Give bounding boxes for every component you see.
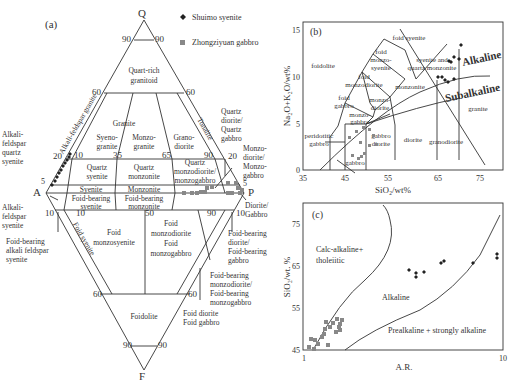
- tas-granodiorite: granodiorite: [429, 138, 463, 146]
- panel-c: (c) 45 55 65 75 1 10 A.R. SiO₂/wt. % Cal…: [282, 203, 507, 372]
- tick-35: 35: [113, 150, 123, 160]
- tas-syenite-1: syenite and: [416, 56, 448, 64]
- panel-b-yticks: 0 5 10 15: [292, 26, 300, 175]
- field-granodiorite-2: diorite: [174, 142, 194, 151]
- callout-md-3: Monzo-: [243, 162, 267, 171]
- field-foid-monzodiorite-4: monzogabbro: [150, 249, 191, 258]
- c-field-peralkaline: Prealkaline + strongly alkaline: [388, 326, 486, 335]
- tick-f90-right: 90: [158, 340, 168, 350]
- panel-b-xticks: 35 45 55 65 75: [299, 174, 484, 183]
- callout-fbd-2: diorite/: [228, 238, 251, 247]
- tick-q90-left: 90: [122, 34, 132, 44]
- field-quartz-monzodiorite-3: monzogabbro: [174, 176, 215, 185]
- callout-afqs-3: quartz: [2, 148, 21, 157]
- tick-q5-right: 5: [243, 179, 247, 188]
- field-foid-bearing-monzonite-2: monzonite: [128, 202, 160, 211]
- callout-fbd-3: Foid-bearing: [228, 247, 267, 256]
- apex-a-label: A: [33, 186, 41, 198]
- callout-dg-2: Gabbro: [245, 210, 268, 219]
- tick-q5-left: 5: [41, 177, 45, 186]
- callout-fbafs-3: syenite: [6, 255, 28, 264]
- tas-foid-gabbro-2: gabbro: [334, 102, 354, 110]
- field-foid-monzodiorite: Foid: [164, 219, 178, 228]
- tick-90: 90: [204, 150, 214, 160]
- field-syenogranite-2: granite: [97, 142, 118, 151]
- callout-afqs-4: syenite: [2, 157, 24, 166]
- c-field-calc-alkaline-2: tholeiitic: [316, 256, 345, 265]
- callout-fbmd-3: Foid-bearing: [210, 289, 249, 298]
- panel-b: (b) 0 5 10 15 35 45 55 65 75 SiO₂/wt% Na…: [282, 22, 503, 195]
- tas-peridotitic-2: gabbro: [309, 140, 329, 148]
- field-quartz-monzonite-2: monzonite: [128, 172, 160, 181]
- panel-c-ylabel: SiO₂/wt. %: [282, 256, 292, 297]
- c-gabbro-points: [307, 317, 344, 351]
- figure-canvas: (a) Q A P F: [0, 0, 522, 383]
- c-ytick-45: 45: [292, 346, 300, 355]
- tick-f90-left: 90: [123, 340, 133, 350]
- field-foid-monzodiorite-3: Foid: [164, 239, 178, 248]
- callout-dg-1: Diorite/: [245, 201, 269, 210]
- tas-gabbro: gabbro: [345, 159, 365, 167]
- field-quartz-syenite-2: syenite: [86, 172, 108, 181]
- tas-subalkaline-label: Subalkaline: [444, 81, 501, 104]
- apex-q-label: Q: [138, 7, 146, 19]
- tas-monzodiorite-2: diorite: [371, 104, 389, 112]
- panel-a-label: (a): [45, 18, 58, 31]
- tas-granite: granite: [468, 105, 487, 113]
- field-quartz-monzonite: Quartz: [134, 163, 155, 172]
- tas-peridotitic-1: peridotitic: [305, 132, 334, 140]
- c-xtick-10: 10: [499, 354, 507, 363]
- tick-q90-right: 90: [155, 34, 165, 44]
- tas-foid-gabbro-1: foid: [338, 94, 350, 102]
- field-granodiorite: Grano-: [173, 133, 195, 142]
- tas-foid-syenite: foid syenite: [393, 34, 426, 42]
- field-foidolite: Foidolite: [130, 312, 158, 321]
- field-quartz-rich: Quart-rich: [128, 66, 159, 75]
- tick-f60-right: 60: [188, 289, 198, 299]
- callout-fbd-1: Foid-bearing: [228, 229, 267, 238]
- tas-gabbro-diorite-2: diorite: [372, 140, 390, 148]
- tick-f90: 90: [207, 208, 217, 218]
- legend-label-gabbro: Zhongziyuan gabbro: [192, 38, 258, 47]
- callout-fbmd-2: monzodiorite/: [210, 280, 253, 289]
- panel-c-label: (c): [312, 209, 323, 221]
- field-quartz-rich-2: granitoid: [130, 76, 157, 85]
- field-syenite: Syenite: [80, 185, 103, 194]
- tick-65: 65: [162, 150, 172, 160]
- tick-10: 10: [74, 150, 84, 160]
- panel-c-xlabel: A.R.: [395, 362, 412, 372]
- field-alkali-feldspar-granite: Alkali-feldspar granite: [57, 91, 99, 155]
- legend: Shuimo syenite Zhongziyuan gabbro: [180, 13, 258, 47]
- callout-fbd-4: gabbro: [228, 256, 249, 265]
- b-xtick-45: 45: [341, 174, 349, 183]
- apex-f-label: F: [139, 370, 145, 382]
- legend-square-icon: [180, 40, 185, 45]
- c-ytick-55: 55: [292, 304, 300, 313]
- c-ytick-65: 65: [292, 262, 300, 271]
- tas-alkaline-label: Alkaline: [461, 48, 502, 68]
- callout-fbmd-1: Foid-bearing: [210, 271, 249, 280]
- callout-qd-4: gabbro: [221, 134, 242, 143]
- callout-afqs-2: feldspar: [2, 139, 27, 148]
- c-syenite-points: [407, 252, 499, 279]
- legend-diamond-icon: [180, 14, 186, 20]
- tas-foid-monzodiorite-2: monzodiorite: [345, 81, 382, 89]
- field-syenogranite: Syeno-: [96, 133, 118, 142]
- b-ytick-10: 10: [292, 73, 300, 82]
- panel-c-yticks: 45 55 65 75: [292, 220, 300, 355]
- callout-fd-2: Foid gabbro: [183, 318, 220, 327]
- panel-b-ylabel: Na₂O+K₂O/wt%: [282, 65, 292, 126]
- callout-md-2: diorite/: [243, 153, 266, 162]
- tick-f10-left: 10: [45, 208, 55, 218]
- tas-monzonite: monzonite: [395, 83, 425, 91]
- field-foid-bearing-syenite-2: syenite: [80, 202, 102, 211]
- tas-foid-monzosyenite-1: foid: [375, 48, 387, 56]
- c-field-alkaline: Alkaline: [382, 293, 410, 302]
- callout-md-4: gabbro: [243, 171, 264, 180]
- b-xtick-55: 55: [384, 174, 392, 183]
- legend-label-syenite: Shuimo syenite: [192, 13, 242, 22]
- tas-foidolite: foidolite: [311, 62, 335, 70]
- panel-a: (a) Q A P F: [2, 7, 269, 382]
- callout-qd-1: Quartz: [221, 107, 242, 116]
- callout-fd-1: Foid diorite: [183, 309, 219, 318]
